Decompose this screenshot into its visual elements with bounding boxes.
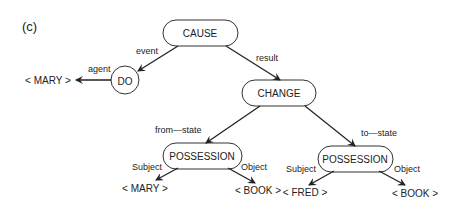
conceptual-dependency-diagram: (c) CAUSE DO CHANGE POSSESSION POSSESSIO… bbox=[0, 0, 455, 212]
to-state-edge bbox=[305, 106, 355, 146]
book-right-leaf: < BOOK > bbox=[392, 188, 438, 199]
object-left-edge-label: Object bbox=[241, 162, 267, 172]
subject-right-edge-label: Subject bbox=[286, 164, 316, 174]
diagram-lines bbox=[0, 0, 455, 212]
cause-label: CAUSE bbox=[183, 28, 217, 39]
result-edge bbox=[226, 46, 280, 80]
change-label: CHANGE bbox=[258, 88, 301, 99]
do-label: DO bbox=[118, 76, 133, 87]
mary-agent-leaf: < MARY > bbox=[25, 75, 71, 86]
object-right-edge-label: Object bbox=[394, 164, 420, 174]
subject-left-edge-label: Subject bbox=[132, 162, 162, 172]
possession-left-label: POSSESSION bbox=[169, 151, 235, 162]
from-state-edge-label: from—state bbox=[155, 125, 202, 135]
panel-label: (c) bbox=[22, 19, 37, 34]
book-left-leaf: < BOOK > bbox=[235, 185, 281, 196]
result-edge-label: result bbox=[256, 53, 278, 63]
mary-subject-leaf: < MARY > bbox=[122, 183, 168, 194]
from-state-edge bbox=[206, 106, 260, 143]
fred-subject-leaf: < FRED > bbox=[283, 187, 327, 198]
to-state-edge-label: to—state bbox=[361, 128, 397, 138]
event-edge-label: event bbox=[136, 46, 158, 56]
agent-edge-label: agent bbox=[88, 64, 111, 74]
possession-right-label: POSSESSION bbox=[322, 154, 388, 165]
